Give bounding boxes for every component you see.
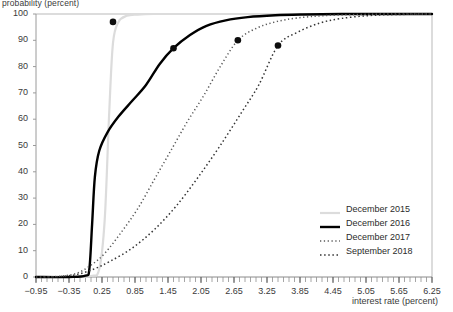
- y-tick-label: 70: [0, 87, 28, 97]
- legend-item-label: December 2016: [346, 218, 410, 228]
- legend-swatch-icon: [320, 246, 340, 256]
- legend-item: December 2017: [320, 230, 450, 244]
- chart-plot: [0, 0, 453, 312]
- legend-item: December 2015: [320, 202, 450, 216]
- legend-item: September 2018: [320, 244, 450, 258]
- legend-item-label: December 2015: [346, 204, 410, 214]
- y-tick-label: 20: [0, 218, 28, 228]
- legend-swatch-icon: [320, 232, 340, 242]
- x-tick-label: 6.25: [412, 286, 452, 296]
- y-tick-label: 40: [0, 166, 28, 176]
- legend-swatch-icon: [320, 204, 340, 214]
- series-marker: [170, 45, 177, 52]
- chart-container: probability (percent) 010203040506070809…: [0, 0, 453, 312]
- y-tick-label: 90: [0, 34, 28, 44]
- y-tick-label: 30: [0, 192, 28, 202]
- y-tick-label: 60: [0, 113, 28, 123]
- y-tick-label: 10: [0, 245, 28, 255]
- legend-item-label: September 2018: [346, 246, 413, 256]
- legend-swatch-icon: [320, 218, 340, 228]
- series-marker: [110, 19, 117, 26]
- x-axis-title: interest rate (percent): [352, 296, 438, 306]
- series-marker: [235, 37, 242, 44]
- legend-item-label: December 2017: [346, 232, 410, 242]
- chart-legend: December 2015December 2016December 2017S…: [320, 202, 450, 258]
- series-marker: [275, 42, 282, 49]
- y-tick-label: 80: [0, 61, 28, 71]
- y-tick-label: 50: [0, 140, 28, 150]
- y-tick-label: 0: [0, 271, 28, 281]
- y-tick-label: 100: [0, 8, 28, 18]
- legend-item: December 2016: [320, 216, 450, 230]
